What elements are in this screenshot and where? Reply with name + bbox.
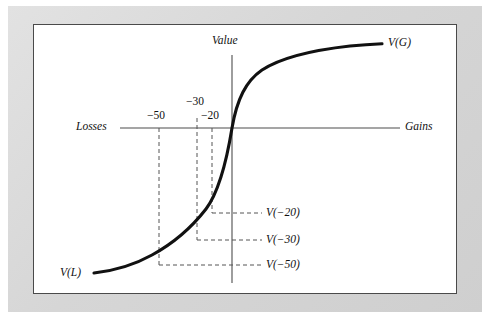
curve-label-v-gains: V(G): [388, 37, 411, 49]
curve-label-v-losses: V(L): [60, 267, 81, 279]
xtick-label-neg20: −20: [201, 110, 219, 122]
value-function-curve: [94, 44, 382, 273]
axis-label-gains: Gains: [405, 121, 432, 133]
plot-area: Value Losses Gains −50 −30 −20 V(G) V(L)…: [34, 25, 456, 293]
figure-root: Value Losses Gains −50 −30 −20 V(G) V(L)…: [0, 0, 490, 326]
plot-frame: Value Losses Gains −50 −30 −20 V(G) V(L)…: [33, 24, 457, 294]
xtick-label-neg50: −50: [147, 110, 165, 122]
value-label-v-neg20: V(−20): [266, 207, 300, 219]
xtick-label-neg30: −30: [186, 96, 204, 108]
value-function-chart: [34, 25, 457, 294]
axis-label-losses: Losses: [76, 121, 107, 133]
value-label-v-neg30: V(−30): [266, 234, 300, 246]
value-label-v-neg50: V(−50): [266, 259, 300, 271]
axis-label-value: Value: [212, 35, 238, 47]
